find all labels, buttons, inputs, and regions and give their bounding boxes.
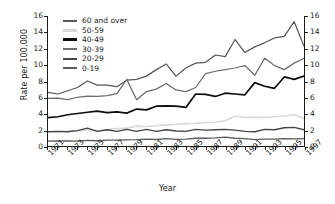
y-tick-label-right: 6 xyxy=(310,94,324,102)
y-tick-mark-left xyxy=(44,65,47,66)
legend-swatch xyxy=(63,48,77,50)
legend-item[interactable]: 0-19 xyxy=(63,64,127,74)
y-tick-mark-right xyxy=(305,16,308,17)
legend-item-label: 20-29 xyxy=(82,55,104,63)
legend-swatch xyxy=(63,67,77,69)
legend-item[interactable]: 50-59 xyxy=(63,26,127,36)
y-tick-mark-left xyxy=(44,131,47,132)
y-tick-label-right: 16 xyxy=(310,12,324,20)
chart-legend: 60 and over50-5940-4930-3920-290-19 xyxy=(63,16,127,73)
y-tick-label-left: 16 xyxy=(29,12,43,20)
legend-item-label: 50-59 xyxy=(82,27,104,35)
y-tick-mark-left xyxy=(44,49,47,50)
y-tick-label-left: 4 xyxy=(29,110,43,118)
y-tick-label-left: 2 xyxy=(29,127,43,135)
legend-item[interactable]: 40-49 xyxy=(63,35,127,45)
y-tick-label-right: 8 xyxy=(310,78,324,86)
y-tick-label-left: 6 xyxy=(29,94,43,102)
x-axis-title: Year xyxy=(0,184,335,193)
y-tick-mark-right xyxy=(305,114,308,115)
y-tick-label-right: 10 xyxy=(310,61,324,69)
y-tick-mark-left xyxy=(44,98,47,99)
legend-swatch xyxy=(63,29,77,32)
y-tick-mark-left xyxy=(44,82,47,83)
legend-item[interactable]: 30-39 xyxy=(63,45,127,55)
y-tick-mark-left xyxy=(44,114,47,115)
legend-item-label: 40-49 xyxy=(82,36,104,44)
y-axis-title: Rate per 100,000 xyxy=(20,5,29,125)
y-tick-label-right: 4 xyxy=(310,110,324,118)
y-tick-mark-right xyxy=(305,82,308,83)
y-tick-label-left: 12 xyxy=(29,45,43,53)
legend-swatch xyxy=(63,20,77,22)
y-tick-label-right: 2 xyxy=(310,127,324,135)
legend-swatch xyxy=(63,58,77,60)
legend-item[interactable]: 60 and over xyxy=(63,16,127,26)
legend-item-label: 30-39 xyxy=(82,46,104,54)
y-tick-mark-right xyxy=(305,65,308,66)
y-tick-label-left: 0 xyxy=(29,143,43,151)
y-tick-mark-right xyxy=(305,131,308,132)
y-tick-mark-right xyxy=(305,98,308,99)
legend-item[interactable]: 20-29 xyxy=(63,54,127,64)
y-tick-mark-right xyxy=(305,49,308,50)
y-tick-label-left: 14 xyxy=(29,28,43,36)
y-tick-label-right: 12 xyxy=(310,45,324,53)
y-tick-mark-right xyxy=(305,32,308,33)
y-tick-mark-left xyxy=(44,32,47,33)
y-tick-mark-left xyxy=(44,16,47,17)
y-tick-label-right: 14 xyxy=(310,28,324,36)
y-tick-label-left: 8 xyxy=(29,78,43,86)
chart-figure: Rate per 100,000 Year 60 and over50-5940… xyxy=(0,0,335,204)
legend-swatch xyxy=(63,38,77,41)
y-tick-label-left: 10 xyxy=(29,61,43,69)
legend-item-label: 0-19 xyxy=(82,65,99,73)
legend-item-label: 60 and over xyxy=(82,17,127,25)
